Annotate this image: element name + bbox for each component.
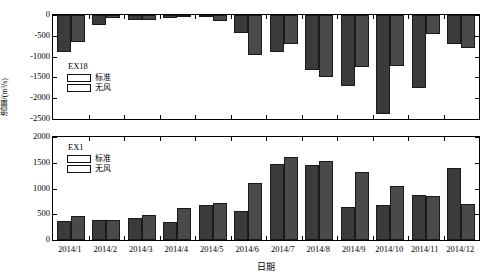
y-axis-tick-label: -1000 [30, 51, 50, 60]
bar [199, 15, 213, 17]
x-axis-tick [408, 236, 409, 240]
bar [390, 15, 404, 66]
x-axis-tick [373, 115, 374, 119]
x-axis-tick [373, 236, 374, 240]
y-axis-tick-label: 0 [46, 10, 50, 19]
legend-ex1: EX1 标准 无风 [67, 142, 111, 174]
x-axis-tick-label: 2014/6 [235, 244, 259, 254]
x-axis-tick [231, 115, 232, 119]
x-axis-tick [444, 115, 445, 119]
bar [71, 216, 85, 240]
bar [92, 15, 106, 25]
bar [284, 15, 298, 44]
y-axis-tick [475, 189, 479, 190]
y-axis-tick-label: 2000 [33, 132, 50, 141]
y-axis-tick [475, 57, 479, 58]
y-axis-tick [53, 214, 57, 215]
figure-container: 流量/(m³/s) EX18 标准 无风 0-500-1000-1500-200… [0, 0, 486, 276]
y-axis-tick [475, 98, 479, 99]
y-axis-tick [53, 163, 57, 164]
x-axis-tick [266, 137, 267, 141]
x-axis-tick-label: 2014/7 [271, 244, 295, 254]
x-axis-tick [231, 137, 232, 141]
bar [319, 161, 333, 240]
y-axis-tick-label: -2000 [30, 93, 50, 102]
x-axis-tick [302, 236, 303, 240]
bar [57, 221, 71, 240]
x-axis-tick [195, 115, 196, 119]
x-axis-tick [302, 115, 303, 119]
y-axis-tick [475, 15, 479, 16]
x-axis-tick [408, 137, 409, 141]
x-axis-tick [337, 115, 338, 119]
bar [128, 218, 142, 240]
x-axis-tick-label: 2014/2 [93, 244, 117, 254]
y-axis-tick-label: -500 [34, 30, 50, 39]
y-axis-tick [53, 57, 57, 58]
bar [412, 15, 426, 88]
bar [270, 15, 284, 52]
legend-title-ex18: EX18 [67, 61, 111, 71]
bar [142, 215, 156, 240]
bar [177, 208, 191, 240]
plot-area-ex1: EX1 标准 无风 [52, 136, 480, 241]
bar [426, 15, 440, 34]
bar [199, 205, 213, 240]
x-axis-tick [160, 15, 161, 19]
x-axis-tick [124, 236, 125, 240]
x-axis-tick [337, 236, 338, 240]
legend-ex18: EX18 标准 无风 [67, 61, 111, 93]
x-axis-tick [337, 137, 338, 141]
x-axis-tick [195, 137, 196, 141]
y-axis-tick [475, 36, 479, 37]
bar [163, 222, 177, 240]
x-axis-tick [302, 15, 303, 19]
x-axis-tick [195, 15, 196, 19]
x-axis-tick-label: 2014/4 [164, 244, 188, 254]
y-axis-tick [53, 189, 57, 190]
bar [341, 207, 355, 240]
x-axis-tick [89, 137, 90, 141]
legend-swatch-standard [67, 155, 91, 163]
x-axis-tick [373, 15, 374, 19]
legend-row-standard: 标准 [67, 154, 111, 163]
x-axis-tick [124, 115, 125, 119]
x-axis-tick [160, 115, 161, 119]
x-axis-tick [408, 15, 409, 19]
bar [447, 168, 461, 240]
x-axis-tick [124, 137, 125, 141]
bar [248, 183, 262, 240]
bar [106, 15, 120, 18]
bar [71, 15, 85, 42]
x-axis-tick [444, 15, 445, 19]
x-axis-tick [89, 236, 90, 240]
y-axis-tick-label: 500 [37, 209, 50, 218]
legend-label-standard: 标准 [95, 154, 111, 163]
legend-swatch-nowind [67, 165, 91, 173]
x-axis-tick [266, 15, 267, 19]
bar [412, 195, 426, 240]
y-axis-tick [53, 119, 57, 120]
bar [355, 15, 369, 67]
plot-area-ex18: EX18 标准 无风 [52, 14, 480, 120]
x-axis-tick-label: 2014/10 [375, 244, 403, 254]
y-axis-tick [53, 98, 57, 99]
bar [234, 211, 248, 240]
bar [106, 220, 120, 240]
bar [57, 15, 71, 52]
y-axis-tick [53, 77, 57, 78]
y-axis-tick [475, 214, 479, 215]
x-axis-tick-label: 2014/12 [446, 244, 474, 254]
bar [376, 205, 390, 240]
x-axis-tick-label: 2014/8 [306, 244, 330, 254]
bar [177, 15, 191, 17]
x-axis-tick [89, 115, 90, 119]
bar [341, 15, 355, 86]
legend-row-nowind: 无风 [67, 164, 111, 173]
x-axis-tick [160, 236, 161, 240]
legend-label-nowind: 无风 [95, 83, 111, 92]
legend-title-ex1: EX1 [67, 142, 111, 152]
y-axis-tick-label: 1000 [33, 183, 50, 192]
bar [461, 15, 475, 48]
bar [355, 172, 369, 240]
